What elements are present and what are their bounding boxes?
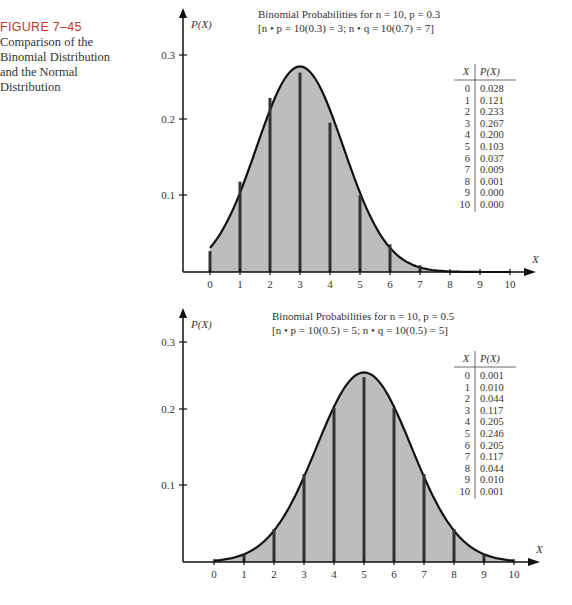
table-cell-x: 10 [460,199,471,210]
table-cell-x: 1 [465,382,470,393]
table-header-px: P(X) [479,66,500,78]
y-axis-arrow-icon [179,8,187,18]
table-cell-x: 4 [465,416,471,427]
table-cell-px: 0.001 [480,176,504,187]
chart-title: Binomial Probabilities for n = 10, p = 0… [272,310,455,322]
table-cell-x: 9 [465,474,470,485]
x-tick-label: 0 [211,568,217,580]
table-cell-px: 0.117 [480,405,503,416]
x-tick-label: 5 [361,568,367,580]
table-cell-px: 0.233 [480,106,504,117]
x-tick-label: 7 [417,278,423,290]
x-tick-label: 1 [241,568,247,580]
table-cell-px: 0.000 [480,187,504,198]
x-tick-label: 10 [505,278,517,290]
table-cell-x: 2 [465,393,470,404]
table-cell-x: 0 [465,370,470,381]
y-axis-arrow-icon [179,308,187,318]
y-axis-label: P(X) [190,318,212,331]
x-tick-label: 6 [391,568,397,580]
y-tick-label: 0.1 [161,479,175,491]
table-cell-px: 0.028 [480,83,504,94]
table-cell-px: 0.009 [480,164,504,175]
table-cell-px: 0.121 [480,95,504,106]
x-tick-label: 5 [357,278,363,290]
x-tick-label: 1 [237,278,243,290]
table-cell-px: 0.267 [480,118,504,129]
table-cell-x: 9 [465,187,470,198]
chart-binomial-p03: P(X)X0.10.20.3012345678910Binomial Proba… [161,8,540,290]
y-axis-label: P(X) [190,18,212,31]
x-tick-label: 4 [331,568,337,580]
x-tick-label: 3 [301,568,307,580]
x-axis-label: X [531,253,540,265]
table-cell-px: 0.010 [480,382,504,393]
table-cell-x: 6 [465,440,470,451]
y-tick-label: 0.2 [161,403,175,415]
x-axis-arrow-icon [524,268,536,276]
chart-title: Binomial Probabilities for n = 10, p = 0… [258,8,441,20]
y-tick-label: 0.1 [161,189,175,201]
table-cell-px: 0.037 [480,153,504,164]
x-tick-label: 2 [267,278,273,290]
table-cell-x: 3 [465,118,470,129]
x-tick-label: 9 [477,278,483,290]
x-tick-label: 6 [387,278,393,290]
x-tick-label: 0 [207,278,213,290]
x-axis-arrow-icon [528,558,540,566]
table-header-x: X [462,66,470,77]
table-cell-px: 0.205 [480,440,504,451]
table-cell-x: 0 [465,83,470,94]
x-tick-label: 9 [481,568,487,580]
table-header-px: P(X) [479,353,500,365]
table-cell-x: 5 [465,141,470,152]
x-tick-label: 8 [451,568,457,580]
table-cell-px: 0.001 [480,370,504,381]
table-cell-px: 0.000 [480,199,504,210]
table-cell-x: 8 [465,463,470,474]
table-cell-x: 7 [465,451,470,462]
table-cell-px: 0.200 [480,129,504,140]
table-cell-x: 1 [465,95,470,106]
chart-binomial-p05: P(X)X0.10.20.3012345678910Binomial Proba… [161,308,544,580]
table-header-x: X [462,353,470,364]
table-cell-px: 0.205 [480,416,504,427]
x-tick-label: 7 [421,568,427,580]
table-cell-px: 0.044 [480,463,504,474]
table-cell-x: 6 [465,153,470,164]
chart-subtitle: [n • p = 10(0.5) = 5; n • q = 10(0.5) = … [272,324,448,337]
table-cell-x: 10 [460,486,471,497]
table-cell-px: 0.044 [480,393,504,404]
chart-subtitle: [n • p = 10(0.3) = 3; n • q = 10(0.7) = … [258,22,434,35]
table-cell-x: 2 [465,106,470,117]
x-tick-label: 4 [327,278,333,290]
x-tick-label: 2 [271,568,277,580]
x-axis-label: X [535,543,544,555]
table-cell-px: 0.001 [480,486,504,497]
y-tick-label: 0.2 [161,113,175,125]
y-tick-label: 0.3 [161,336,175,348]
table-cell-px: 0.117 [480,451,503,462]
table-cell-px: 0.103 [480,141,504,152]
x-tick-label: 8 [447,278,453,290]
table-cell-x: 4 [465,129,471,140]
x-tick-label: 10 [509,568,521,580]
charts-canvas: P(X)X0.10.20.3012345678910Binomial Proba… [0,0,572,605]
table-cell-px: 0.010 [480,474,504,485]
table-cell-x: 3 [465,405,470,416]
table-cell-px: 0.246 [480,428,504,439]
table-cell-x: 5 [465,428,470,439]
y-tick-label: 0.3 [161,49,175,61]
x-tick-label: 3 [297,278,303,290]
table-cell-x: 8 [465,176,470,187]
table-cell-x: 7 [465,164,470,175]
